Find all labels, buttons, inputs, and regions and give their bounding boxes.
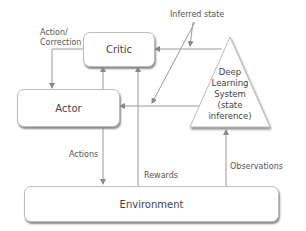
critic-node: Critic — [83, 32, 155, 67]
observations-label: Observations — [230, 162, 283, 172]
environment-node: Environment — [24, 186, 279, 222]
actions-label: Actions — [69, 150, 98, 160]
action-correction-label: Action/ Correction — [40, 28, 81, 48]
rewards-label: Rewards — [144, 171, 178, 181]
actor-node: Actor — [17, 89, 120, 127]
environment-label: Environment — [120, 199, 184, 210]
critic-label: Critic — [106, 44, 132, 55]
inferred-state-leader-actor — [152, 22, 195, 103]
deep-learning-label: Deep Learning System (state inference) — [198, 67, 262, 122]
edge-critic-to-actor — [52, 49, 83, 88]
inferred-state-label: Inferred state — [170, 10, 224, 20]
actor-label: Actor — [55, 103, 81, 114]
